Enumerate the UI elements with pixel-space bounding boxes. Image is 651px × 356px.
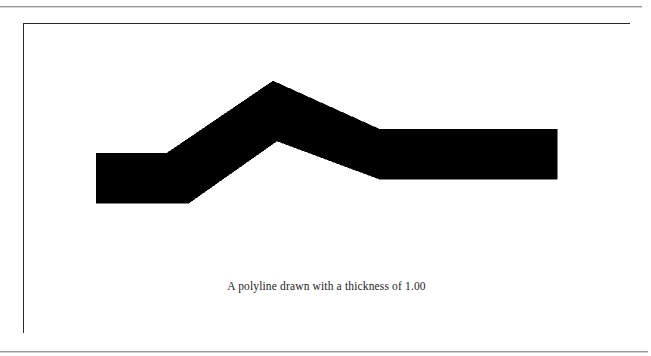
bottom-horizontal-rule	[0, 351, 648, 352]
top-horizontal-rule	[0, 6, 642, 7]
figure-caption: A polyline drawn with a thickness of 1.0…	[24, 280, 629, 293]
figure-frame: A polyline drawn with a thickness of 1.0…	[23, 23, 630, 333]
document-page: A polyline drawn with a thickness of 1.0…	[0, 0, 651, 356]
